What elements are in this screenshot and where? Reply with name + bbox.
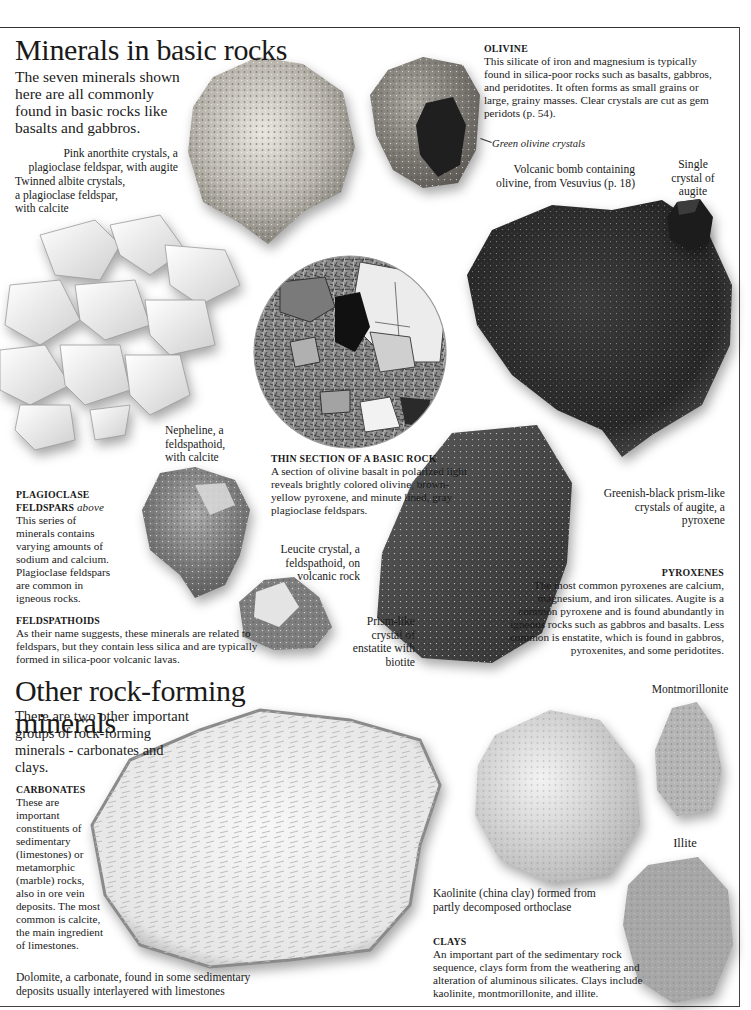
feldspathoids-heading: FELDSPATHOIDS bbox=[16, 614, 278, 627]
thin-section-block: THIN SECTION OF A BASIC ROCK A section o… bbox=[271, 452, 471, 517]
caption-leucite: Leucite crystal, a feldspathoid, on volc… bbox=[265, 543, 360, 584]
caption-dolomite: Dolomite, a carbonate, found in some sed… bbox=[16, 971, 266, 998]
thin-section-micrograph bbox=[250, 252, 450, 452]
caption-montmorillonite: Montmorillonite bbox=[640, 683, 740, 697]
frame-right-rule bbox=[739, 27, 740, 1007]
clays-heading: CLAYS bbox=[433, 935, 663, 948]
olivine-heading: OLIVINE bbox=[484, 42, 724, 55]
caption-illite: Illite bbox=[655, 837, 715, 851]
frame-top-rule bbox=[0, 27, 740, 28]
caption-albite: Twinned albite crystals, a plagioclase f… bbox=[15, 175, 133, 216]
caption-volcanic-bomb: Volcanic bomb containing olivine, from V… bbox=[490, 163, 635, 190]
augite-crystal-specimen-image bbox=[665, 197, 715, 252]
feldspathoids-block: FELDSPATHOIDS As their name suggests, th… bbox=[16, 614, 278, 666]
caption-green-olivine: Green olivine crystals bbox=[492, 137, 652, 151]
olivine-text: This silicate of iron and magnesium is t… bbox=[484, 55, 724, 120]
pyroxenes-block: PYROXENES The most common pyroxenes are … bbox=[498, 566, 724, 657]
pyroxenes-text: The most common pyroxenes are calcium, m… bbox=[498, 579, 724, 657]
caption-single-augite: Single crystal of augite bbox=[663, 158, 723, 199]
plagioclase-block: PLAGIOCLASE FELDSPARS above This series … bbox=[16, 488, 116, 605]
clays-text: An important part of the sedimentary roc… bbox=[433, 948, 663, 1000]
caption-nepheline: Nepheline, a feldspathoid, with calcite bbox=[165, 424, 245, 465]
section2-intro: There are two other important groups of … bbox=[15, 708, 195, 776]
feldspathoids-text: As their name suggests, these minerals a… bbox=[16, 627, 278, 666]
section1-intro: The seven minerals shown here are all co… bbox=[15, 68, 190, 136]
plagioclase-heading-note: above bbox=[77, 501, 104, 513]
caption-augite-prisms: Greenish-black prism-like crystals of au… bbox=[600, 487, 725, 528]
section1-title: Minerals in basic rocks bbox=[15, 34, 315, 66]
olivine-block: OLIVINE This silicate of iron and magnes… bbox=[484, 42, 724, 120]
carbonates-text: These are important constituents of sedi… bbox=[16, 796, 104, 952]
caption-anorthite: Pink anorthite crystals, a plagioclase f… bbox=[18, 147, 178, 174]
albite-specimen-image bbox=[0, 205, 245, 455]
plagioclase-heading: PLAGIOCLASE FELDSPARS above bbox=[16, 488, 116, 514]
frame-bottom-rule bbox=[0, 1006, 740, 1007]
caption-enstatite: Prism-like crystal of enstatite with bio… bbox=[340, 615, 415, 669]
thin-section-heading: THIN SECTION OF A BASIC ROCK bbox=[271, 452, 471, 465]
clays-block: CLAYS An important part of the sedimenta… bbox=[433, 935, 663, 1000]
caption-kaolinite: Kaolinite (china clay) formed from partl… bbox=[433, 887, 603, 914]
olivine-specimen-image bbox=[368, 55, 483, 190]
pyroxenes-heading: PYROXENES bbox=[498, 566, 724, 579]
thin-section-text: A section of olivine basalt in polarized… bbox=[271, 465, 471, 517]
plagioclase-text: This series of minerals contains varying… bbox=[16, 514, 116, 605]
montmorillonite-specimen-image bbox=[652, 700, 724, 818]
carbonates-block: CARBONATES These are important constitue… bbox=[16, 783, 104, 952]
carbonates-heading: CARBONATES bbox=[16, 783, 104, 796]
